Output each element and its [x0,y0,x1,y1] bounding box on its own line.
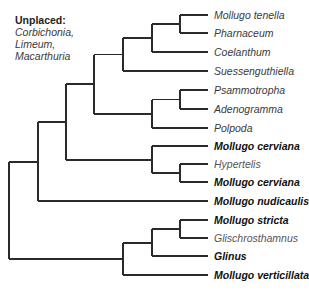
leaf-label-glischrosthamnus: Glischrosthamnus [214,232,298,244]
leaf-label-mollugo-verticillata: Mollugo verticillata [214,269,309,281]
leaf-label-coelanthum: Coelanthum [214,46,271,58]
leaf-label-mollugo-tenella: Mollugo tenella [214,9,285,21]
unplaced-taxon: Macarthuria [15,50,74,62]
leaf-label-mollugo-cerviana-2: Mollugo cerviana [214,176,300,188]
leaf-label-pharnaceum: Pharnaceum [214,27,274,39]
unplaced-taxa-note: Unplaced: Corbichonia, Limeum, Macarthur… [15,14,74,62]
leaf-label-mollugo-stricta: Mollugo stricta [214,214,289,226]
leaf-label-polpoda: Polpoda [214,122,253,134]
unplaced-heading: Unplaced: [15,14,74,26]
leaf-label-glinus: Glinus [214,250,247,262]
leaf-label-mollugo-nudicaulis: Mollugo nudicaulis [214,195,309,207]
leaf-label-hypertelis: Hypertelis [214,158,261,170]
leaf-label-suessenguthiella: Suessenguthiella [214,65,294,77]
leaf-label-psammotropha: Psammotropha [214,84,285,96]
leaf-label-adenogramma: Adenogramma [214,103,283,115]
leaf-label-mollugo-cerviana-1: Mollugo cerviana [214,140,300,152]
unplaced-taxon: Corbichonia, [15,26,74,38]
unplaced-taxon: Limeum, [15,38,74,50]
